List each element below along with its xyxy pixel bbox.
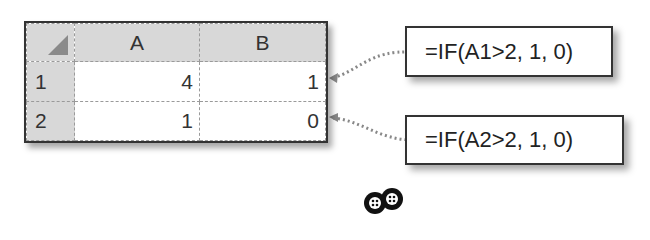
formula-callout-b2: =IF(A2>2, 1, 0): [405, 115, 624, 165]
connector-b1: [333, 52, 412, 78]
column-header-a[interactable]: A: [75, 24, 200, 62]
formula-text: =IF(A2>2, 1, 0): [425, 127, 573, 153]
formula-text: =IF(A1>2, 1, 0): [425, 39, 573, 65]
select-all-icon: [48, 35, 68, 55]
cell-a1[interactable]: 4: [75, 62, 200, 102]
row-header-1[interactable]: 1: [27, 62, 75, 102]
connector-b2: [333, 118, 412, 140]
select-all-corner[interactable]: [27, 24, 75, 62]
cell-a2[interactable]: 1: [75, 102, 200, 141]
formula-callout-b1: =IF(A1>2, 1, 0): [405, 26, 613, 77]
row-header-2[interactable]: 2: [27, 102, 75, 141]
cell-b2[interactable]: 0: [200, 102, 326, 141]
spreadsheet-grid: A B 1 4 1 2 1 0: [24, 21, 328, 143]
column-header-b[interactable]: B: [200, 24, 326, 62]
cell-b1[interactable]: 1: [200, 62, 326, 102]
two-wheels-icon: [363, 186, 405, 216]
